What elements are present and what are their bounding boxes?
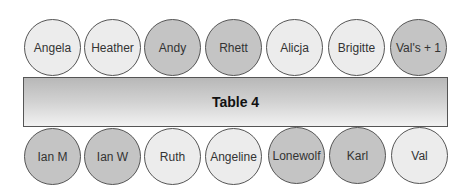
- seat-top-3: Andy: [144, 19, 201, 76]
- table: Table 4: [23, 77, 448, 127]
- seat-bottom-6: Karl: [329, 127, 386, 184]
- seat-top-5: Alicja: [266, 19, 323, 76]
- seat-bottom-5: Lonewolf: [268, 127, 325, 184]
- seat-bottom-2: Ian W: [84, 128, 141, 185]
- guest-name: Val's + 1: [396, 41, 441, 55]
- guest-name: Ruth: [160, 150, 185, 164]
- guest-name: Val: [411, 149, 427, 163]
- seat-bottom-4: Angeline: [205, 128, 262, 185]
- guest-name: Ian M: [37, 150, 67, 164]
- guest-name: Brigitte: [338, 41, 375, 55]
- guest-name: Rhett: [219, 41, 248, 55]
- guest-name: Angeline: [210, 150, 257, 164]
- guest-name: Lonewolf: [272, 149, 320, 163]
- guest-name: Karl: [347, 149, 368, 163]
- guest-name: Alicja: [280, 41, 309, 55]
- seat-bottom-3: Ruth: [144, 128, 201, 185]
- seat-bottom-1: Ian M: [24, 128, 81, 185]
- seat-bottom-7: Val: [391, 127, 448, 184]
- guest-name: Andy: [159, 41, 186, 55]
- seat-top-1: Angela: [24, 19, 81, 76]
- seat-top-4: Rhett: [205, 19, 262, 76]
- seat-top-2: Heather: [84, 19, 141, 76]
- seat-top-7: Val's + 1: [390, 19, 447, 76]
- guest-name: Heather: [91, 41, 134, 55]
- seat-top-6: Brigitte: [328, 19, 385, 76]
- table-label: Table 4: [212, 94, 259, 110]
- guest-name: Angela: [34, 41, 71, 55]
- guest-name: Ian W: [97, 150, 128, 164]
